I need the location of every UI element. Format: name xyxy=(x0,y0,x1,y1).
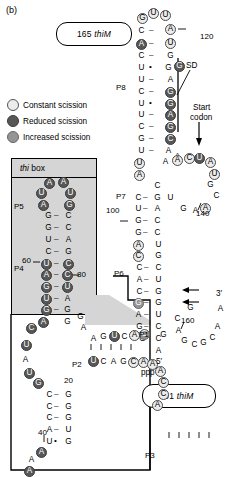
nucleotide-A: A xyxy=(152,400,163,411)
nucleotide-G: G xyxy=(205,180,216,191)
nucleotide-C: C xyxy=(136,122,147,133)
pos-40: 40 xyxy=(38,429,47,437)
nucleotide-G: G xyxy=(133,298,144,309)
nucleotide-A: A xyxy=(165,24,176,35)
nucleotide-A: A xyxy=(136,39,147,50)
nucleotide-C: C xyxy=(211,191,222,202)
watson-crick-pair-dash: – xyxy=(54,270,58,278)
nucleotide-C: C xyxy=(63,259,74,270)
watson-crick-pair-dash: – xyxy=(149,122,153,130)
pos-160: 160 xyxy=(181,317,194,325)
legend: Constant scission Reduced scission Incre… xyxy=(7,97,90,145)
watson-crick-pair-dash: – xyxy=(54,425,58,433)
nucleotide-A: A xyxy=(133,240,144,251)
legend-label-constant: Constant scission xyxy=(23,101,87,110)
nucleotide-C: C xyxy=(158,389,169,400)
nucleotide-G: G xyxy=(98,332,109,343)
legend-swatch-increased-icon xyxy=(7,131,19,143)
legend-label-increased: Increased scission xyxy=(23,133,90,142)
nucleotide-G: G xyxy=(174,61,185,72)
nucleotide-A: A xyxy=(58,177,69,188)
nucleotide-G: G xyxy=(163,63,174,74)
nucleotide-U: U xyxy=(21,340,32,351)
watson-crick-pair-dash: – xyxy=(144,263,148,271)
nucleotide-C: C xyxy=(63,223,74,234)
nucleotide-G: G xyxy=(62,305,73,316)
start-codon-label-1: Start xyxy=(193,104,210,112)
nucleotide-C: C xyxy=(207,333,218,344)
nucleotide-A: A xyxy=(44,178,55,189)
nucleotide-G: G xyxy=(153,287,164,298)
nucleotide-U: U xyxy=(41,259,52,270)
helix-label-P8: P8 xyxy=(116,84,126,92)
watson-crick-pair-dash: – xyxy=(149,51,153,59)
nucleotide-A: A xyxy=(20,355,31,366)
nucleotide-U: U xyxy=(63,425,74,436)
nucleotide-A: A xyxy=(212,322,223,333)
nucleotide-U: U xyxy=(194,153,205,164)
pos-20: 20 xyxy=(64,377,73,385)
watson-crick-pair-dash: – xyxy=(143,228,147,236)
watson-crick-pair-dash: – xyxy=(54,282,58,290)
watson-crick-pair-dash: – xyxy=(143,216,147,224)
nucleotide-U: U xyxy=(153,310,164,321)
nucleotide-U: U xyxy=(148,8,159,19)
three-prime-label: 3′ xyxy=(216,290,222,298)
nucleotide-U: U xyxy=(134,158,145,169)
pos-100: 100 xyxy=(106,207,119,215)
nucleotide-C: C xyxy=(63,211,74,222)
watson-crick-pair-dash: – xyxy=(144,275,148,283)
watson-crick-pair-dash: – xyxy=(149,134,153,142)
watson-crick-pair-dash: – xyxy=(149,26,153,34)
watson-crick-pair-dash: – xyxy=(143,193,147,201)
legend-item-reduced: Reduced scission xyxy=(7,113,90,129)
nucleotide-U: U xyxy=(136,146,147,157)
nucleotide-C: C xyxy=(136,26,147,37)
start-codon-label-2: codon xyxy=(190,114,212,122)
nucleotide-A: A xyxy=(215,304,226,315)
nucleotide-C: C xyxy=(62,270,73,281)
nucleotide-G: G xyxy=(43,223,54,234)
helix-label-P4: P4 xyxy=(14,265,24,273)
nucleotide-U: U xyxy=(160,10,171,21)
callout-165-thiM[interactable]: 165 thiM xyxy=(56,22,132,46)
nucleotide-A: A xyxy=(153,346,164,357)
helix-label-P7: P7 xyxy=(116,193,126,201)
nucleotide-A: A xyxy=(165,75,176,86)
nucleotide-U: U xyxy=(36,188,47,199)
nucleotide-G: G xyxy=(64,200,75,211)
pos-80: 80 xyxy=(77,271,86,279)
nucleotide-G: G xyxy=(137,13,148,24)
sd-label: SD xyxy=(186,62,197,70)
nucleotide-G: G xyxy=(165,99,176,110)
watson-crick-pair-dash: – xyxy=(54,305,58,313)
nucleotide-U: U xyxy=(153,275,164,286)
nucleotide-U: U xyxy=(165,193,176,204)
nucleotide-A: A xyxy=(63,235,74,246)
nucleotide-U: U xyxy=(136,75,147,86)
watson-crick-pair-dash: – xyxy=(54,247,58,255)
nucleotide-G: G xyxy=(63,390,74,401)
nucleotide-G: G xyxy=(185,303,196,314)
nucleotide-A: A xyxy=(172,155,183,166)
nucleotide-G: G xyxy=(153,251,164,262)
watson-crick-pair-dash: – xyxy=(54,211,58,219)
nucleotide-A: A xyxy=(155,366,166,377)
watson-crick-pair-dash: – xyxy=(54,413,58,421)
helix-label-P3: P3 xyxy=(145,452,155,460)
nucleotide-G: G xyxy=(165,87,176,98)
nucleotide-U: U xyxy=(136,99,147,110)
nucleotide-G: G xyxy=(63,437,74,448)
watson-crick-pair-dash: – xyxy=(149,87,153,95)
pos-140: 140 xyxy=(196,210,209,218)
nucleotide-G: G xyxy=(63,413,74,424)
watson-crick-pair-dash: – xyxy=(54,223,58,231)
nucleotide-U: U xyxy=(43,235,54,246)
nucleotide-U: U xyxy=(136,110,147,121)
five-prime-label: 5′ xyxy=(156,358,162,366)
nucleotide-G: G xyxy=(41,305,52,316)
nucleotide-U: U xyxy=(153,240,164,251)
callout-91-gene: thiM xyxy=(177,391,194,401)
nucleotide-A: A xyxy=(26,455,37,466)
